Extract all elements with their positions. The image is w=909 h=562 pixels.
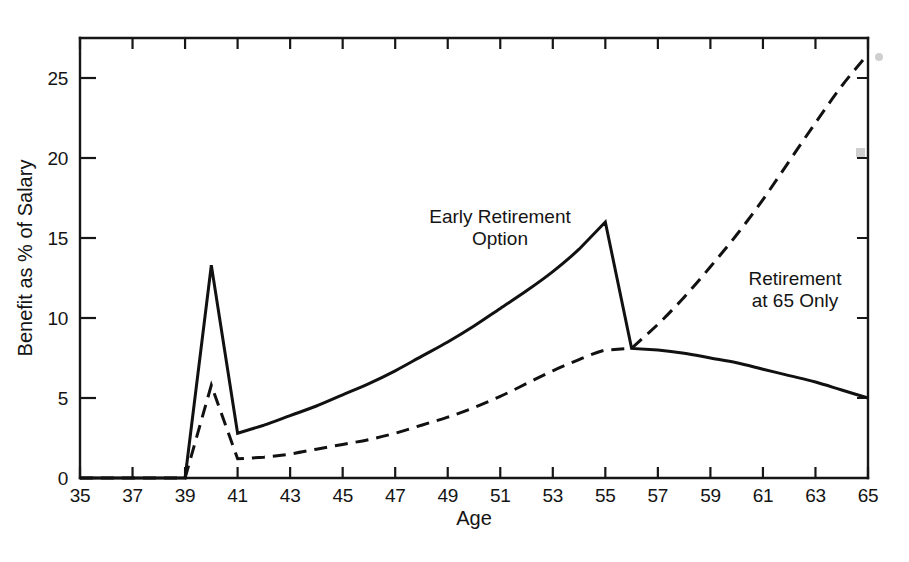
x-tick-label-63: 63 [805,485,826,506]
x-tick-label-61: 61 [753,485,774,506]
y-tick-label-10: 10 [47,308,68,329]
x-tick-label-65: 65 [858,485,879,506]
y-axis-ticks-left [80,78,96,478]
x-axis-title: Age [456,507,492,529]
annotation-line-2: Option [472,228,528,249]
y-tick-label-20: 20 [47,148,68,169]
x-tick-label-43: 43 [280,485,301,506]
x-axis-ticks-bottom [80,467,868,478]
scan-speck [856,148,865,157]
annotation-line-2: at 65 Only [752,290,839,311]
y-tick-label-15: 15 [47,228,68,249]
plot-frame [80,38,868,478]
chart-canvas: 35373941434547495153555759616365 0510152… [0,0,909,562]
series-early-retirement-option [80,222,868,478]
annotation-retirement-at-65-only: Retirement at 65 Only [749,268,843,311]
annotation-early-retirement-option: Early Retirement Option [429,206,571,249]
x-tick-label-53: 53 [543,485,564,506]
y-axis-tick-labels: 0510152025 [47,68,68,489]
y-tick-label-25: 25 [47,68,68,89]
x-tick-label-45: 45 [332,485,353,506]
x-tick-label-35: 35 [70,485,91,506]
chart-figure: 35373941434547495153555759616365 0510152… [0,0,909,562]
y-axis-title: Benefit as % of Salary [14,160,36,357]
x-tick-label-51: 51 [490,485,511,506]
scan-speck [875,53,883,61]
y-tick-label-0: 0 [58,468,68,489]
x-axis-tick-labels: 35373941434547495153555759616365 [70,485,879,506]
annotation-line-1: Retirement [749,268,843,289]
x-tick-label-49: 49 [437,485,458,506]
x-tick-label-55: 55 [595,485,616,506]
x-tick-label-57: 57 [648,485,669,506]
x-axis-ticks-top [80,38,868,49]
y-axis-ticks-right [857,78,868,478]
x-tick-label-59: 59 [700,485,721,506]
x-tick-label-47: 47 [385,485,406,506]
x-tick-label-37: 37 [122,485,143,506]
y-tick-label-5: 5 [58,388,68,409]
series-retirement-at-65-only [80,54,868,478]
annotation-line-1: Early Retirement [429,206,571,227]
x-tick-label-41: 41 [227,485,248,506]
x-tick-label-39: 39 [175,485,196,506]
